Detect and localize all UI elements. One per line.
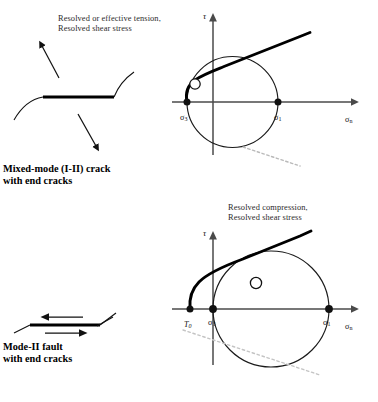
mohr-diagram-upper	[172, 20, 352, 166]
figure-vector-art	[0, 0, 378, 402]
mohr-diagram-lower	[172, 231, 352, 375]
tension-arrow-lower-right	[78, 114, 96, 146]
fault-wing-left	[14, 325, 30, 333]
lower-dotted-extension	[183, 330, 320, 375]
tension-arrow-upper-left	[42, 46, 59, 78]
lower-failure-envelope	[190, 231, 311, 309]
upper-failure-envelope	[186, 33, 310, 103]
sketch-mode-ii-fault	[14, 313, 116, 333]
lower-sigma1-point	[325, 305, 333, 313]
upper-sigma1-point	[275, 99, 282, 106]
upper-sigma3-point	[184, 99, 191, 106]
crack-wing-right	[114, 72, 134, 97]
sketch-mixed-mode-crack	[14, 46, 134, 146]
upper-stress-state-marker	[190, 79, 200, 89]
upper-dotted-extension	[243, 147, 300, 166]
lower-sigma3-point	[209, 305, 217, 313]
crack-wing-left	[14, 97, 43, 120]
lower-tensile-strength-point	[187, 306, 194, 313]
lower-stress-state-marker	[250, 277, 261, 288]
figure-root: Resolved or effective tension, Resolved …	[0, 0, 378, 402]
fault-wing-right-b	[97, 317, 113, 326]
